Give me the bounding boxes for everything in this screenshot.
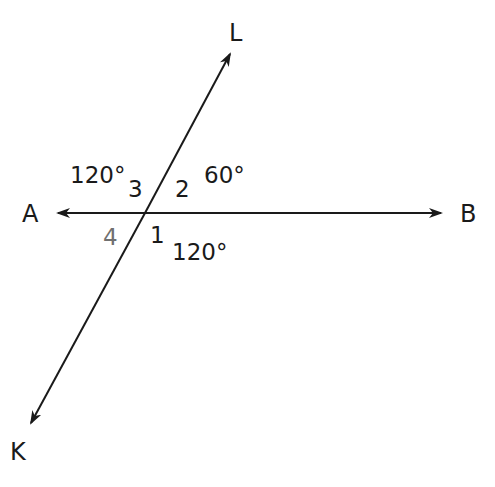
angle-measure-1: 120° <box>172 239 227 265</box>
angle-number-3: 3 <box>128 176 143 202</box>
ray-toward-k <box>31 213 145 423</box>
angle-number-4: 4 <box>103 224 118 250</box>
point-label-a: A <box>22 200 39 228</box>
intersecting-lines-diagram: L A B K 3 2 4 1 120° 60° 120° <box>0 0 495 487</box>
angle-number-2: 2 <box>175 176 190 202</box>
point-label-b: B <box>460 200 476 228</box>
angle-number-1: 1 <box>150 222 165 248</box>
point-label-l: L <box>229 19 243 47</box>
angle-measure-3: 120° <box>70 162 125 188</box>
angle-measure-2: 60° <box>204 162 245 188</box>
point-label-k: K <box>10 438 27 466</box>
